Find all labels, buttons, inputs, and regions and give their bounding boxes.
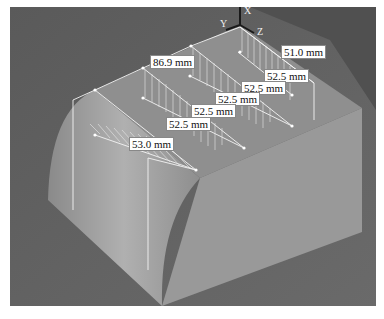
cad-viewport[interactable]: X Y Z 51.0 mm 86.9 mm 52.5 mm 52.5 mm 52… [10, 7, 376, 306]
axis-y-label: Y [220, 19, 227, 29]
dimension-label[interactable]: 51.0 mm [281, 45, 326, 59]
axis-x-label: X [244, 7, 251, 16]
dimension-label[interactable]: 52.5 mm [166, 117, 211, 131]
dimension-label[interactable]: 52.5 mm [191, 104, 236, 118]
axis-z-label: Z [257, 27, 263, 37]
dimension-label[interactable]: 86.9 mm [150, 55, 195, 69]
dimension-label[interactable]: 53.0 mm [129, 137, 174, 151]
